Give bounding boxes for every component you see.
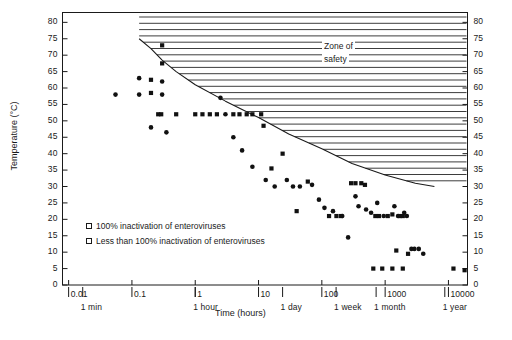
data-point-circle [149, 125, 154, 130]
data-point-circle [405, 214, 410, 219]
y-tick-label-right-45: 45 [474, 131, 496, 141]
data-point-circle [160, 79, 165, 84]
data-point-square [390, 212, 394, 216]
y-tick-label-5: 5 [36, 263, 58, 273]
data-point-square [327, 214, 331, 218]
y-tick-label-right-25: 25 [474, 197, 496, 207]
y-tick-label-80: 80 [36, 16, 58, 26]
data-point-square [349, 181, 353, 185]
x-tick-label-0.1: 0.1 [134, 289, 146, 299]
y-tick-label-25: 25 [36, 197, 58, 207]
y-tick-label-10: 10 [36, 246, 58, 256]
data-point-circle [331, 209, 336, 214]
x-tick-label-10000: 10000 [450, 289, 474, 299]
data-point-square [269, 166, 273, 170]
data-point-circle [218, 96, 223, 101]
data-point-square [245, 112, 249, 116]
x-tick-label-10: 10 [261, 289, 271, 299]
data-point-square [160, 43, 164, 47]
data-point-circle [356, 204, 361, 209]
data-point-square [359, 181, 363, 185]
data-point-square [401, 266, 405, 270]
data-point-square [149, 78, 153, 82]
y-tick-label-right-70: 70 [474, 49, 496, 59]
data-point-square [334, 214, 338, 218]
data-point-square [208, 112, 212, 116]
data-point-square [394, 248, 398, 252]
y-tick-label-right-0: 0 [474, 279, 496, 289]
data-point-square [215, 112, 219, 116]
data-point-circle [137, 92, 142, 97]
y-axis-ticks-right [463, 22, 468, 285]
y-tick-label-40: 40 [36, 148, 58, 158]
data-point-circle [412, 247, 417, 252]
x-secondary-label-2: 1 day [281, 302, 302, 312]
data-point-square [160, 61, 164, 65]
x-secondary-label-5: 1 year [443, 302, 467, 312]
data-point-circle [250, 165, 255, 170]
data-point-square [295, 209, 299, 213]
data-point-square [406, 252, 410, 256]
data-point-square [373, 214, 377, 218]
legend-item-label: 100% inactivation of enteroviruses [96, 221, 225, 231]
x-secondary-label-0: 1 min [81, 302, 102, 312]
data-point-circle [369, 210, 374, 215]
data-point-circle [310, 183, 315, 188]
data-point-circle [223, 112, 228, 117]
data-point-square [231, 112, 235, 116]
zone-of-safety-hatching [139, 17, 466, 181]
data-point-circle [396, 214, 401, 219]
chart-figure: Temperature (°C) Time (hours) Zone of sa… [0, 0, 512, 340]
chart-legend: 100% inactivation of enteroviruses Less … [86, 219, 265, 249]
y-axis-ticks-left [63, 22, 68, 285]
x-tick-label-100: 100 [324, 289, 338, 299]
y-axis-title: Temperature (°C) [9, 91, 19, 181]
y-tick-label-right-35: 35 [474, 164, 496, 174]
data-point-circle [322, 206, 327, 211]
data-point-circle [298, 184, 303, 189]
data-point-square [306, 179, 310, 183]
y-tick-label-right-40: 40 [474, 148, 496, 158]
data-point-circle [346, 235, 351, 240]
x-secondary-label-4: 1 month [374, 302, 405, 312]
y-tick-label-right-10: 10 [474, 246, 496, 256]
data-point-circle [392, 204, 397, 209]
data-point-circle [240, 148, 245, 153]
y-tick-label-60: 60 [36, 82, 58, 92]
data-point-circle [164, 130, 169, 135]
data-point-circle [381, 214, 386, 219]
y-tick-label-right-5: 5 [474, 263, 496, 273]
data-point-circle [231, 135, 236, 140]
y-tick-label-55: 55 [36, 98, 58, 108]
x-tick-label-1000: 1000 [387, 289, 406, 299]
data-point-circle [285, 178, 290, 183]
data-point-square [159, 112, 163, 116]
legend-square-open-icon [86, 238, 92, 244]
y-tick-label-right-80: 80 [474, 16, 496, 26]
zone-of-safety-label-line1: Zone of [322, 41, 355, 52]
data-point-square [281, 152, 285, 156]
data-point-circle [160, 92, 165, 97]
data-point-square [371, 266, 375, 270]
x-axis-title: Time (hours) [215, 308, 266, 318]
y-tick-label-15: 15 [36, 230, 58, 240]
data-point-square [200, 112, 204, 116]
y-tick-label-right-55: 55 [474, 98, 496, 108]
data-point-square [237, 112, 241, 116]
data-point-circle [416, 247, 421, 252]
zone-of-safety-label-line2: safety [322, 54, 349, 65]
data-point-square [261, 124, 265, 128]
x-tick-label-1: 1 [197, 289, 202, 299]
data-point-square [149, 91, 153, 95]
data-point-circle [113, 92, 118, 97]
y-tick-label-75: 75 [36, 33, 58, 43]
data-point-circle [291, 184, 296, 189]
data-point-circle [272, 184, 277, 189]
data-point-square [174, 112, 178, 116]
x-secondary-label-1: 1 hour [193, 302, 218, 312]
data-point-circle [263, 178, 268, 183]
data-point-circle [375, 201, 380, 206]
data-point-square [363, 183, 367, 187]
data-point-circle [421, 252, 426, 257]
data-point-square [451, 266, 455, 270]
